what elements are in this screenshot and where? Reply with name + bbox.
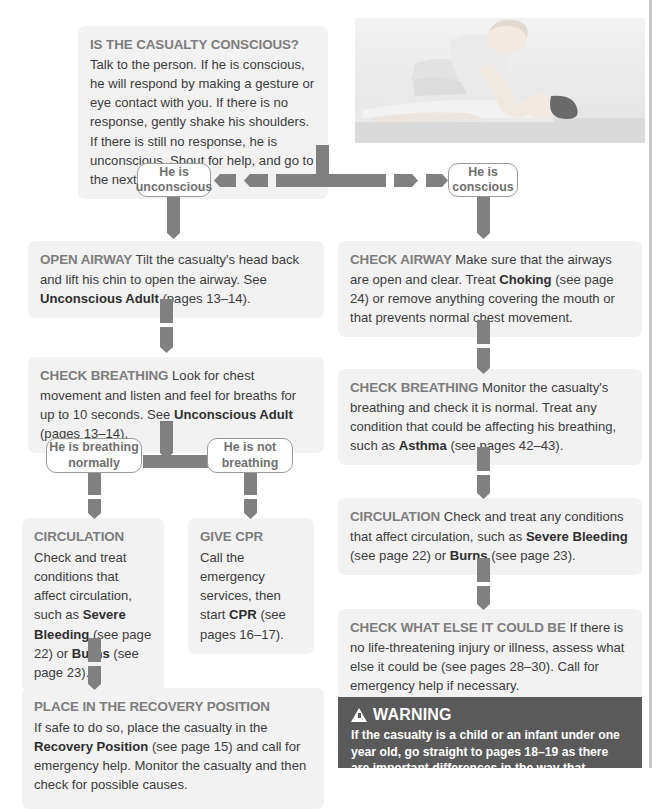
decision-unconscious-label: He is unconscious — [136, 165, 212, 195]
arrow-split-right-dash — [394, 174, 418, 187]
arrow-left-1a — [160, 299, 173, 323]
left-check-breathing-heading: CHECK BREATHING — [40, 368, 168, 383]
check-airway-text: CHECK AIRWAY Make sure that the airways … — [350, 250, 630, 327]
open-airway-ref1: Unconscious Adult — [40, 291, 159, 306]
arrow-right-3b — [477, 586, 490, 610]
arrow-right-2b — [477, 475, 490, 499]
left-check-breathing-text: CHECK BREATHING Look for chest movement … — [40, 366, 312, 443]
check-airway-ref1: Choking — [499, 272, 551, 287]
recovery-ref1: Recovery Position — [34, 739, 148, 754]
warning-title-row: WARNING — [351, 706, 630, 724]
arrow-split-right-head — [426, 174, 448, 187]
decision-unconscious[interactable]: He is unconscious — [137, 163, 211, 197]
recovery-part1: If safe to do so, place the casualty in … — [34, 720, 268, 735]
arrow-breathing-normally-head — [88, 499, 101, 519]
arrow-right-1a — [477, 320, 490, 344]
arrow-split-stem — [316, 166, 329, 178]
arrow-intro-down — [316, 145, 329, 167]
arrow-left-circ-down — [88, 638, 101, 662]
panel-give-cpr: GIVE CPR Call the emergency services, th… — [188, 518, 314, 654]
right-check-breathing-part2: (see pages 42–43). — [447, 438, 563, 453]
open-airway-text: OPEN AIRWAY Tilt the casualty's head bac… — [40, 250, 312, 308]
decision-not-breathing[interactable]: He is not breathing — [207, 438, 293, 473]
right-circulation-part3: (see page 23). — [488, 548, 576, 563]
recovery-position-heading: PLACE IN THE RECOVERY POSITION — [34, 697, 312, 717]
panel-open-airway: OPEN AIRWAY Tilt the casualty's head bac… — [28, 241, 324, 318]
warning-body: If the casualty is a child or an infant … — [351, 727, 630, 793]
recovery-position-text: If safe to do so, place the casualty in … — [34, 718, 312, 795]
give-cpr-heading: GIVE CPR — [200, 527, 302, 547]
panel-recovery-position: PLACE IN THE RECOVERY POSITION If safe t… — [22, 688, 324, 809]
decision-breathing-normally[interactable]: He is breathing normally — [46, 438, 142, 473]
right-circulation-part2: (see page 22) or — [350, 548, 450, 563]
warning-box: WARNING If the casualty is a child or an… — [338, 697, 642, 768]
arrow-conscious-down — [477, 197, 490, 239]
right-circulation-ref1: Severe Bleeding — [526, 529, 628, 544]
warning-title: WARNING — [373, 706, 452, 724]
decision-conscious[interactable]: He is conscious — [448, 163, 518, 197]
warning-triangle-icon — [351, 708, 367, 722]
arrow-right-2a — [477, 447, 490, 471]
left-circulation-heading: CIRCULATION — [34, 527, 152, 547]
right-circulation-text: CIRCULATION Check and treat any conditio… — [350, 507, 630, 565]
give-cpr-ref1: CPR — [229, 607, 257, 622]
right-check-breathing-ref1: Asthma — [399, 438, 447, 453]
right-check-breathing-text: CHECK BREATHING Monitor the casualty's b… — [350, 378, 630, 455]
give-cpr-text: Call the emergency services, then start … — [200, 548, 302, 644]
arrow-not-breathing-down — [244, 473, 257, 495]
arrow-breathing-normally-down — [88, 473, 101, 495]
photo-illustration — [355, 18, 645, 143]
arrow-unconscious-down — [167, 197, 180, 239]
intro-heading: IS THE CASUALTY CONSCIOUS? — [90, 37, 299, 52]
left-circulation-text: Check and treat conditions that affect c… — [34, 548, 152, 683]
decision-breathing-normally-label: He is breathing normally — [47, 440, 141, 470]
check-what-else-heading: CHECK WHAT ELSE IT COULD BE — [350, 620, 566, 635]
panel-check-what-else: CHECK WHAT ELSE IT COULD BE If there is … — [338, 609, 642, 705]
right-check-breathing-heading: CHECK BREATHING — [350, 380, 478, 395]
left-check-breathing-ref1: Unconscious Adult — [174, 407, 293, 422]
responsiveness-check-photo — [355, 18, 645, 143]
open-airway-heading: OPEN AIRWAY — [40, 252, 132, 267]
arrow-split-center-bar — [276, 174, 386, 187]
arrow-left-1b — [160, 327, 173, 353]
panel-right-circulation: CIRCULATION Check and treat any conditio… — [338, 498, 642, 575]
decision-conscious-label: He is conscious — [449, 165, 517, 195]
check-what-else-text: CHECK WHAT ELSE IT COULD BE If there is … — [350, 618, 630, 695]
arrow-not-breathing-head — [244, 499, 257, 519]
panel-check-airway: CHECK AIRWAY Make sure that the airways … — [338, 241, 642, 337]
check-airway-heading: CHECK AIRWAY — [350, 252, 452, 267]
panel-right-check-breathing: CHECK BREATHING Monitor the casualty's b… — [338, 369, 642, 465]
arrow-right-3a — [477, 558, 490, 582]
decision-not-breathing-label: He is not breathing — [208, 440, 292, 470]
right-circulation-heading: CIRCULATION — [350, 509, 440, 524]
